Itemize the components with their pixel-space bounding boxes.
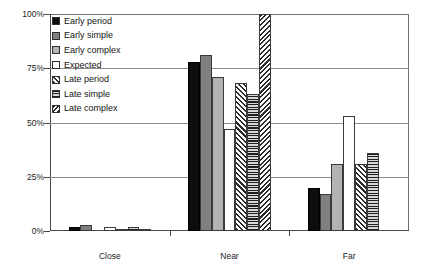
legend-swatch-icon <box>52 46 60 54</box>
x-axis-group-label: Far <box>289 252 409 261</box>
y-axis-tick-label: 50% <box>0 119 44 128</box>
y-axis-tick-label: 75% <box>0 64 44 73</box>
legend-swatch-icon <box>52 32 60 40</box>
x-axis-group-label: Close <box>50 252 170 261</box>
gridline <box>50 123 409 124</box>
bar <box>331 164 343 231</box>
bar <box>235 83 247 231</box>
bar <box>212 77 224 231</box>
legend-item: Early period <box>52 14 152 29</box>
bar <box>188 62 200 231</box>
legend-item: Late simple <box>52 87 152 102</box>
bar <box>320 194 332 231</box>
bar <box>224 129 236 231</box>
y-axis-tick-label: 0% <box>0 227 44 236</box>
x-axis-group-label: Near <box>170 252 290 261</box>
legend-swatch-icon <box>52 76 60 84</box>
bar <box>200 55 212 231</box>
legend-swatch-icon <box>52 90 60 98</box>
bar <box>355 164 367 231</box>
legend-item: Late period <box>52 72 152 87</box>
x-axis-tick-mark <box>289 231 290 236</box>
bar-chart: 100%75%50%25%0% CloseNearFar Early perio… <box>0 0 422 266</box>
legend-swatch-icon <box>52 17 60 25</box>
legend-item-label: Expected <box>64 61 102 70</box>
bar <box>247 94 259 231</box>
legend-item: Early simple <box>52 29 152 44</box>
legend-item: Expected <box>52 58 152 73</box>
bar <box>343 116 355 231</box>
y-axis-tick-label: 25% <box>0 173 44 182</box>
bar <box>259 14 271 231</box>
legend-swatch-icon <box>52 61 60 69</box>
legend-item-label: Late complex <box>64 104 118 113</box>
x-axis: CloseNearFar <box>50 231 409 266</box>
y-axis-tick-label: 100% <box>0 10 44 19</box>
chart-legend: Early periodEarly simpleEarly complexExp… <box>52 14 152 116</box>
legend-item: Early complex <box>52 43 152 58</box>
legend-item-label: Early period <box>64 17 112 26</box>
legend-item: Late complex <box>52 102 152 117</box>
y-axis: 100%75%50%25%0% <box>0 0 50 266</box>
legend-swatch-icon <box>52 105 60 113</box>
bar <box>367 153 379 231</box>
legend-item-label: Early simple <box>64 31 113 40</box>
legend-item-label: Late period <box>64 75 109 84</box>
bar <box>308 188 320 231</box>
legend-item-label: Late simple <box>64 90 110 99</box>
legend-item-label: Early complex <box>64 46 121 55</box>
x-axis-tick-mark <box>170 231 171 236</box>
